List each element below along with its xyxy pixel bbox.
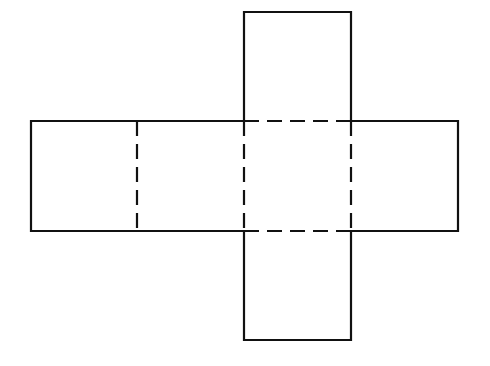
prism-net-diagram (0, 0, 490, 366)
